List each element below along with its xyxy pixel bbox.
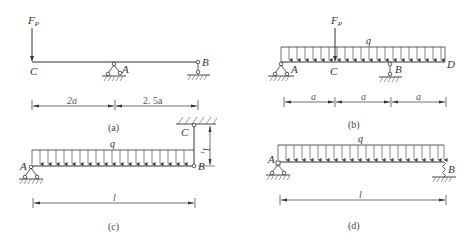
point-label-a: A — [121, 63, 129, 75]
point-label-c: C — [181, 126, 189, 138]
force-label: FP — [330, 14, 343, 28]
dimension-label: 2. 5a — [143, 95, 163, 106]
point-label-b: B — [395, 63, 402, 75]
dimension-label: l — [359, 189, 362, 200]
point-label-d: D — [446, 58, 455, 70]
force-label: FP — [27, 14, 40, 28]
caption-b: (b) — [348, 119, 360, 131]
caption-d: (d) — [348, 220, 360, 232]
caption-a: (a) — [108, 122, 119, 134]
point-label-a: A — [290, 63, 298, 75]
distributed-load-icon — [281, 47, 445, 62]
dimension-label: a — [416, 91, 421, 102]
point-label-a: A — [267, 153, 275, 165]
point-label-c: C — [30, 65, 38, 77]
figure-a: FP C A B 2a 2. 5 — [27, 14, 210, 134]
dimension-label: a — [361, 91, 366, 102]
beam-diagrams: FP C A B 2a 2. 5 — [0, 0, 472, 244]
point-label-c: C — [330, 65, 338, 77]
point-label-b: B — [202, 56, 209, 68]
figure-b: q FP C A B D — [268, 14, 455, 131]
figure-d: q A B l (d) — [266, 133, 456, 232]
dimension-label: l — [113, 192, 116, 203]
caption-c: (c) — [108, 221, 119, 233]
point-label-a: A — [19, 160, 27, 172]
distributed-load-icon — [32, 150, 194, 164]
dimension-line — [280, 195, 446, 205]
load-label: q — [366, 35, 371, 46]
load-label: q — [110, 138, 115, 149]
distributed-load-icon — [278, 145, 444, 160]
dimension-line — [32, 100, 198, 110]
fixed-ceiling-icon — [176, 117, 217, 124]
point-label-b: B — [448, 163, 455, 175]
dimension-label: 2a — [67, 95, 77, 106]
dimension-label: a — [311, 91, 316, 102]
load-label: q — [358, 133, 363, 144]
figure-c: C B l1 q — [19, 117, 217, 233]
